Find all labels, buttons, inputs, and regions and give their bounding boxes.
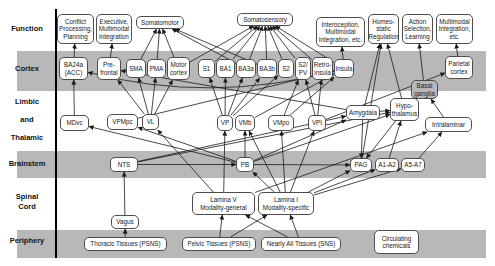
edge-mdvc-ba24a bbox=[74, 80, 75, 115]
node-vmpo: VMpo bbox=[268, 115, 294, 131]
node-pb: PB bbox=[236, 157, 254, 172]
node-vmb: VMb bbox=[235, 115, 255, 131]
node-a1a2: A1-A2 bbox=[375, 158, 399, 172]
node-laminaI: Lamina I Modality-specific bbox=[258, 192, 314, 215]
node-circulating: Circulating chemicals bbox=[374, 230, 419, 254]
pathway-diagram: Conflict Processing, PlanningExecutive, … bbox=[0, 0, 495, 266]
node-action: Action Selection, Learning bbox=[402, 14, 433, 44]
node-sma: SMA bbox=[126, 59, 146, 78]
node-insula: Insula bbox=[334, 59, 354, 78]
edge-vp-s2 bbox=[233, 76, 278, 116]
edge-basal-action bbox=[419, 44, 423, 80]
edge-nearly-laminaI bbox=[290, 215, 298, 237]
node-s2: S2 bbox=[278, 59, 294, 78]
edge-vp-s1 bbox=[210, 78, 223, 115]
edge-sma-somatomotor bbox=[141, 29, 157, 59]
edge-laminaI-a5a7 bbox=[314, 169, 401, 195]
edge-pb-vpmpc bbox=[138, 127, 236, 161]
row-label-limbic: Limbic bbox=[2, 97, 52, 106]
row-label-periphery: Periphery bbox=[2, 236, 52, 245]
node-parietal: Parietal cortex bbox=[445, 56, 473, 79]
edge-s2-somatosensory bbox=[268, 26, 282, 59]
node-vp: VP bbox=[217, 115, 233, 131]
node-ba1: BA1 bbox=[216, 59, 235, 78]
node-vagus: Vagus bbox=[111, 215, 139, 229]
row-label-cord: Cord bbox=[2, 202, 52, 211]
edge-hypothalamus-homeostatic bbox=[387, 44, 401, 98]
edge-laminaI-vpi bbox=[290, 131, 313, 192]
node-ba24a: BA24a (ACC) bbox=[59, 57, 88, 80]
node-vpmpc: VPMpc bbox=[107, 114, 138, 130]
node-s1: S1 bbox=[198, 59, 215, 78]
node-thoracic: Thoracic Tissues (PSNS) bbox=[84, 237, 167, 251]
edge-laminaV-vl bbox=[158, 130, 214, 192]
node-laminaV: Lamina V Modality-general bbox=[192, 192, 255, 215]
node-a5a7: A5-A7 bbox=[401, 158, 425, 172]
row-label-brainstem: Brainstem bbox=[2, 159, 52, 168]
node-basal: Basal ganglia bbox=[411, 80, 438, 99]
edge-amygdala-hypothalamus bbox=[380, 111, 390, 112]
node-retroinsula: Retro- insula bbox=[312, 57, 333, 80]
hierarchy-axis-line bbox=[55, 9, 57, 258]
node-hypothalamus: Hypo- thalamus bbox=[390, 98, 419, 121]
node-amygdala: Amygdala bbox=[346, 105, 380, 120]
node-s2pv: S2/ PV bbox=[295, 57, 311, 80]
node-somatosensory: Somatosensory bbox=[237, 13, 293, 26]
edge-parietal-multimodal bbox=[456, 44, 457, 56]
node-executive: Executive, Multimodal Integration bbox=[96, 14, 132, 44]
edge-insula-interoception bbox=[342, 47, 343, 59]
edge-pma-somatomotor bbox=[157, 29, 159, 59]
edge-pelvic-laminaI bbox=[231, 215, 267, 237]
node-multimodal: Multimodal Integration, etc. bbox=[436, 14, 473, 44]
edge-pag-homeostatic bbox=[362, 44, 381, 158]
node-ba3a: BA3a bbox=[236, 59, 256, 78]
row-label-and: and bbox=[2, 115, 52, 124]
node-mdvc: MDvc bbox=[60, 115, 89, 131]
edge-nearly-laminaV bbox=[246, 215, 288, 237]
edge-pelvic-laminaV bbox=[220, 215, 222, 237]
node-pelvic: Pelvic Tissues (PSNS) bbox=[182, 237, 256, 251]
node-conflict: Conflict Processing, Planning bbox=[57, 14, 94, 44]
node-vpi: VPI bbox=[308, 115, 326, 131]
row-label-cortex: Cortex bbox=[2, 64, 52, 73]
node-vl: VL bbox=[142, 114, 159, 130]
edge-ba3b-somatosensory bbox=[265, 26, 266, 59]
node-interoception: Interoception, Multimodal Integration, e… bbox=[316, 17, 365, 47]
row-label-thalamic: Thalamic bbox=[2, 133, 52, 142]
edge-vl-pma bbox=[151, 78, 155, 114]
edge-vpi-retroinsula bbox=[318, 80, 322, 115]
node-homeostatic: Homeo- static Regulation bbox=[368, 14, 399, 44]
node-somatomotor: Somatomotor bbox=[136, 16, 184, 29]
node-prefrontal: Pre- frontal bbox=[97, 57, 121, 80]
edge-intralaminar-basal bbox=[431, 99, 443, 117]
node-pma: PMA bbox=[147, 59, 166, 78]
node-nearly: Nearly All Tissues (SNS) bbox=[261, 237, 341, 251]
edge-prefrontal-executive bbox=[110, 44, 112, 57]
edge-a5a7-intralaminar bbox=[419, 132, 442, 158]
edge-laminaI-pb bbox=[253, 172, 274, 192]
node-intralaminar: Intralaminar bbox=[425, 117, 472, 132]
node-pag: PAG bbox=[350, 158, 372, 172]
node-ba3b: BA3b bbox=[257, 59, 277, 78]
node-motor: Motor cortex bbox=[167, 57, 190, 80]
edge-laminaV-vp bbox=[224, 131, 225, 192]
edge-amygdala-pag bbox=[361, 120, 362, 158]
edge-vagus-nts bbox=[124, 172, 125, 215]
edge-motor-somatomotor bbox=[163, 29, 174, 57]
row-label-function: Function bbox=[2, 24, 52, 33]
node-nts: NTS bbox=[110, 157, 138, 172]
row-label-spinal: Spinal bbox=[2, 192, 52, 201]
edge-ba24a-conflict bbox=[74, 44, 75, 57]
